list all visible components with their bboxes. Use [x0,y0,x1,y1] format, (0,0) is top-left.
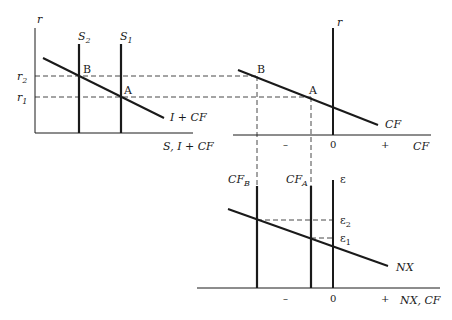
bottom-minus-tick: – [283,293,288,304]
r1-label: r1 [17,91,27,106]
epsilon-axis-label: ε [340,173,346,186]
point-a-left: A [123,84,133,97]
open-economy-diagram: r S2 S1 r2 r1 B A I + CF S, I + CF r B A… [0,0,452,320]
s1-label: S1 [120,30,133,45]
point-a-right: A [308,84,318,97]
bottom-plus-tick: + [381,293,389,304]
cf-curve [238,70,378,125]
s2-label: S2 [78,30,91,45]
topright-plus-tick: + [381,139,389,150]
bottom-x-axis-label: NX, CF [399,294,441,307]
e1-label: ε1 [340,232,351,247]
topright-x-axis-label: CF [413,140,429,153]
e2-label: ε2 [340,214,351,229]
investment-cf-label: I + CF [169,111,207,124]
cfa-label: CFA [286,173,308,188]
diagram-canvas: r S2 S1 r2 r1 B A I + CF S, I + CF r B A… [0,0,452,320]
left-y-axis-label: r [37,13,43,26]
investment-cf-curve [43,58,164,118]
nx-curve [228,209,388,266]
bottom-zero-tick: 0 [330,293,336,304]
cfb-label: CFB [228,173,250,188]
cf-curve-label: CF [385,118,401,131]
r2-label: r2 [17,70,27,85]
left-x-axis-label: S, I + CF [163,140,214,153]
point-b-right: B [257,63,265,76]
nx-curve-label: NX [395,261,415,274]
topright-zero-tick: 0 [330,139,336,150]
point-b-left: B [83,63,91,76]
topright-y-axis-label: r [337,16,343,29]
topright-minus-tick: – [283,139,288,150]
